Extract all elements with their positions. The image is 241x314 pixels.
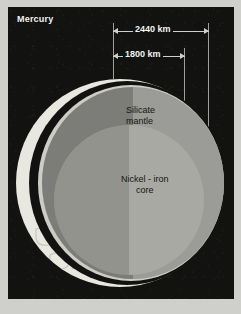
label-silicate-mantle-line2: mantle xyxy=(126,116,155,127)
dimension-label-outer: 2440 km xyxy=(133,24,173,34)
figure-panel: Mercury 2440 km 1800 km xyxy=(8,7,234,299)
core-shading-left xyxy=(54,125,129,275)
dimension-outer-diameter: 2440 km xyxy=(113,25,209,37)
label-silicate-mantle: Silicate mantle xyxy=(126,105,155,127)
page-title: Mercury xyxy=(17,14,53,24)
arrow-left-icon xyxy=(113,28,118,34)
dimension-label-core: 1800 km xyxy=(123,49,163,59)
diagram-canvas: Mercury 2440 km 1800 km xyxy=(0,0,241,314)
dimension-core-diameter: 1800 km xyxy=(113,50,185,62)
arrow-left-icon xyxy=(113,53,118,59)
label-silicate-mantle-line1: Silicate xyxy=(126,105,155,115)
mercury-cutaway xyxy=(16,79,224,287)
label-nickel-iron-core-line1: Nickel - iron xyxy=(121,174,169,184)
arrow-right-icon xyxy=(180,53,185,59)
label-nickel-iron-core: Nickel - iron core xyxy=(121,174,169,196)
arrow-right-icon xyxy=(204,28,209,34)
label-nickel-iron-core-line2: core xyxy=(121,185,169,196)
nickel-iron-core-layer xyxy=(54,125,204,275)
